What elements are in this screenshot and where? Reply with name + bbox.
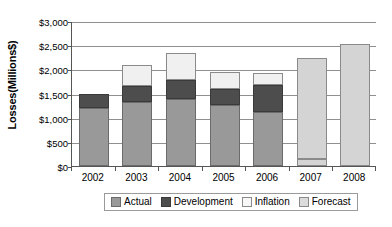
bar-segment-actual: [253, 112, 283, 166]
bar-2006: [253, 21, 283, 166]
bar-segment-development: [166, 80, 196, 99]
chart-legend: ActualDevelopmentInflationForecast: [104, 193, 358, 211]
bar-segment-actual: [79, 108, 109, 166]
y-axis-ticks: $0$500$1,000$1,500$2,000$2,500$3,000: [18, 22, 68, 167]
legend-item-actual[interactable]: Actual: [111, 196, 152, 208]
bar-segment-development: [79, 94, 109, 109]
bar-2005: [210, 21, 240, 166]
bar-segment-actual: [166, 99, 196, 166]
bar-segment-actual: [122, 102, 152, 166]
x-tick-mark: [115, 167, 116, 171]
x-tick-label-2003: 2003: [114, 172, 158, 183]
legend-item-inflation[interactable]: Inflation: [242, 196, 290, 208]
legend-swatch-actual-icon: [111, 197, 121, 207]
legend-swatch-development-icon: [161, 197, 171, 207]
bar-segment-actual: [210, 105, 240, 166]
x-tick-mark: [375, 167, 376, 171]
bar-2007: [297, 21, 327, 166]
y-tick-label: $2,000: [20, 66, 68, 75]
bar-segment-forecast: [297, 58, 327, 159]
bar-segment-inflation: [253, 73, 283, 85]
y-tick-label: $1,500: [20, 90, 68, 99]
x-axis-labels: 2002200320042005200620072008: [71, 172, 376, 186]
bar-segment-inflation: [122, 65, 152, 87]
x-tick-mark: [332, 167, 333, 171]
bar-2002: [79, 21, 109, 166]
x-tick-mark: [289, 167, 290, 171]
legend-item-development[interactable]: Development: [161, 196, 233, 208]
legend-label: Actual: [124, 196, 152, 208]
x-tick-mark: [71, 167, 72, 171]
bar-2008: [340, 21, 370, 166]
bar-segment-development: [122, 86, 152, 101]
bar-2003: [122, 21, 152, 166]
x-tick-label-2004: 2004: [158, 172, 202, 183]
y-axis-title-text: Losses(Millions$): [6, 41, 18, 130]
plot-area: [71, 22, 376, 167]
y-tick-label: $3,000: [20, 18, 68, 27]
y-tick-label: $1,000: [20, 114, 68, 123]
x-tick-mark: [202, 167, 203, 171]
x-tick-mark: [245, 167, 246, 171]
y-tick-label: $500: [20, 138, 68, 147]
x-tick-label-2006: 2006: [245, 172, 289, 183]
x-tick-label-2002: 2002: [71, 172, 115, 183]
bar-2004: [166, 21, 196, 166]
bar-segment-development: [253, 85, 283, 112]
x-tick-label-2008: 2008: [332, 172, 376, 183]
bar-segment-inflation: [166, 53, 196, 80]
x-tick-label-2007: 2007: [289, 172, 333, 183]
x-tick-label-2005: 2005: [202, 172, 246, 183]
legend-label: Development: [174, 196, 233, 208]
bar-segment-forecast: [340, 44, 370, 166]
legend-label: Forecast: [312, 196, 351, 208]
stacked-bar-chart: Losses(Millions$) $0$500$1,000$1,500$2,0…: [0, 0, 392, 227]
bar-segment-forecast-base: [297, 159, 327, 166]
legend-swatch-forecast-icon: [299, 197, 309, 207]
bar-segment-inflation: [210, 72, 240, 90]
y-tick-label: $0: [20, 163, 68, 172]
legend-swatch-inflation-icon: [242, 197, 252, 207]
x-tick-mark: [158, 167, 159, 171]
bar-segment-development: [210, 89, 240, 104]
legend-label: Inflation: [255, 196, 290, 208]
legend-item-forecast[interactable]: Forecast: [299, 196, 351, 208]
y-tick-label: $2,500: [20, 42, 68, 51]
